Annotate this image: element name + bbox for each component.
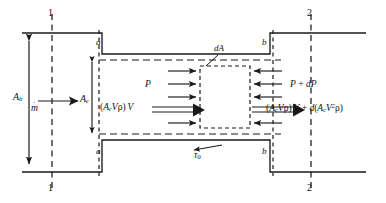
differential-control-volume bbox=[200, 66, 250, 128]
area-b-subscript: b bbox=[19, 95, 22, 102]
dA-leader-line bbox=[206, 55, 218, 66]
area-b-label: Ab bbox=[13, 92, 23, 103]
station-label-2-bottom: 2 bbox=[307, 183, 312, 193]
pressure-outlet-label: P + dP bbox=[290, 80, 316, 90]
pressure-arrows-outlet bbox=[254, 71, 282, 123]
section-label-a-top: a bbox=[96, 38, 101, 47]
mfo-d-close: ) bbox=[340, 103, 343, 113]
element-area-label: dA bbox=[214, 44, 224, 53]
pressure-inlet-label: P bbox=[145, 80, 151, 90]
area-c-subscript: c bbox=[86, 97, 89, 104]
wall-shear-label: τ0 bbox=[194, 151, 201, 161]
pressure-inlet-symbol: P bbox=[145, 79, 151, 89]
wall-shear-arrow bbox=[194, 145, 222, 150]
momentum-flux-outlet-label: (AcVρ) V + d(AcV2ρ) bbox=[266, 103, 343, 114]
area-c-label: Ac bbox=[80, 94, 89, 105]
momentum-flux-arrow-inlet bbox=[152, 104, 205, 117]
mfi-velocity-outer: V bbox=[128, 102, 134, 112]
element-area-symbol: A bbox=[219, 43, 225, 53]
section-label-b-bottom: b bbox=[262, 147, 267, 156]
massflow-accent: ˙ bbox=[33, 102, 36, 110]
station-label-1-top: 1 bbox=[48, 8, 53, 18]
massflow-label: ˙m bbox=[31, 104, 38, 114]
station-label-2-top: 2 bbox=[307, 8, 312, 18]
section-label-a-bottom: a bbox=[96, 147, 101, 156]
station-label-1-bottom: 1 bbox=[48, 183, 53, 193]
momentum-flux-inlet-label: (AcVρ) V bbox=[100, 103, 133, 113]
wall-shear-subscript: 0 bbox=[197, 153, 200, 160]
diagram-vector-layer bbox=[0, 0, 386, 203]
pressure-arrows-inlet bbox=[168, 71, 196, 123]
section-label-b-top: b bbox=[262, 38, 267, 47]
pressure-outlet-dP: P bbox=[311, 79, 317, 89]
figure-canvas: 1 1 2 2 a a b b Ab ˙m Ac dA P P + dP (Ac… bbox=[0, 0, 386, 203]
